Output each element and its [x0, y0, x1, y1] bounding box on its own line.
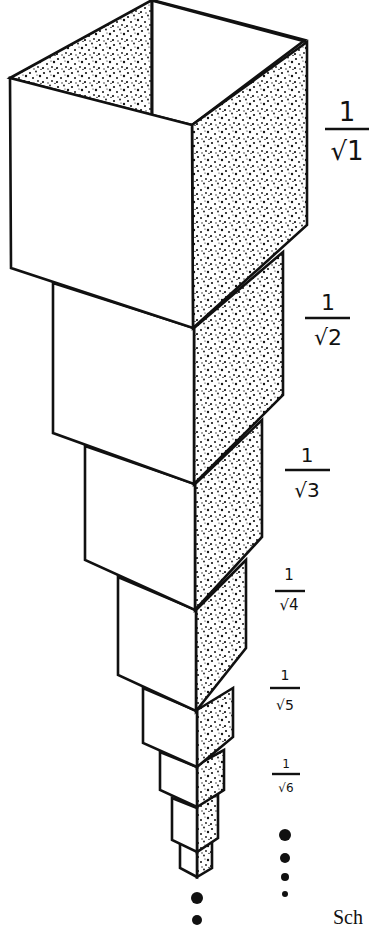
- fraction-denominator-sqrt: √1: [330, 136, 363, 166]
- fraction-label-4: 1√4: [275, 566, 305, 614]
- fraction-label-3: 1√3: [285, 443, 330, 502]
- continuation-dots-right: [279, 829, 291, 897]
- ellipsis-dot-icon: [280, 853, 290, 863]
- ellipsis-dot-icon: [282, 891, 288, 897]
- fraction-numerator: 1: [339, 97, 356, 127]
- fraction-numerator: 1: [282, 757, 290, 771]
- stacked-boxes-diagram: 1√11√21√31√41√51√6 Sch: [0, 0, 369, 935]
- fraction-denominator-sqrt: √6: [278, 781, 293, 795]
- ellipsis-dot-icon: [192, 915, 202, 925]
- fraction-label-6: 1√6: [272, 757, 300, 795]
- fraction-denominator-sqrt: √2: [314, 325, 342, 350]
- caption-fragment: Sch: [333, 906, 363, 928]
- fraction-denominator-sqrt: √3: [294, 478, 319, 502]
- ellipsis-dot-icon: [281, 873, 289, 881]
- fraction-label-2: 1√2: [305, 290, 350, 350]
- fraction-label-5: 1√5: [270, 667, 300, 713]
- fraction-numerator: 1: [284, 566, 294, 584]
- ellipsis-dot-icon: [279, 829, 291, 841]
- continuation-dots-bottom: [191, 892, 203, 925]
- fraction-numerator: 1: [301, 443, 314, 467]
- fraction-denominator-sqrt: √5: [276, 697, 294, 713]
- fraction-denominator-sqrt: √4: [279, 596, 298, 614]
- ellipsis-dot-icon: [191, 892, 203, 904]
- fraction-numerator: 1: [281, 667, 290, 683]
- fraction-label-1: 1√1: [325, 97, 369, 166]
- fraction-numerator: 1: [321, 290, 335, 315]
